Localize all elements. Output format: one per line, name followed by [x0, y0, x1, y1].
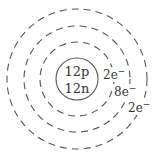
shell-3-charge: −	[143, 99, 151, 109]
shell-3-electron-count: 2e	[128, 101, 143, 115]
shell-2-charge: −	[129, 83, 137, 93]
shell-1-charge: −	[118, 66, 126, 76]
nucleus-neutrons-label: 12n	[65, 81, 91, 96]
bohr-atom-diagram: 12p 12n 2e− 8e− 2e−	[0, 0, 155, 160]
shell-1-electron-count: 2e	[103, 68, 118, 82]
nucleus-protons-label: 12p	[65, 64, 90, 79]
shell-2-electron-count: 8e	[114, 85, 129, 99]
